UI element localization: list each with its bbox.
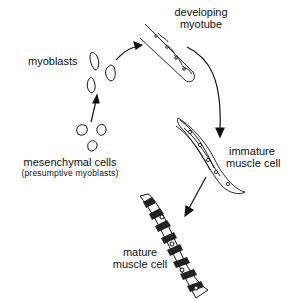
arrow-to-myotube <box>116 42 142 60</box>
myoblast-cells <box>87 53 115 93</box>
label-mesenchymal-line1: mesenchymal cells <box>12 157 128 169</box>
label-myoblasts: myoblasts <box>28 56 78 68</box>
label-mesenchymal-line2: (presumptive myoblasts) <box>12 169 128 178</box>
developing-myotube <box>140 24 194 82</box>
label-developing-line2: myotube <box>166 19 236 31</box>
label-immature-line2: muscle cell <box>226 158 296 170</box>
mesenchymal-cells <box>77 124 106 151</box>
label-mature-muscle-cell: mature muscle cell <box>104 247 176 270</box>
arrow-to-myoblasts <box>91 95 99 122</box>
arrow-to-immature <box>187 47 224 137</box>
arrow-to-mature <box>185 177 206 216</box>
label-immature-line1: immature <box>226 146 296 158</box>
label-mesenchymal-cells: mesenchymal cells (presumptive myoblasts… <box>12 157 128 177</box>
label-mature-line1: mature <box>104 247 176 259</box>
label-immature-muscle-cell: immature muscle cell <box>226 146 296 169</box>
label-mature-line2: muscle cell <box>104 259 176 271</box>
label-developing-line1: developing <box>166 7 236 19</box>
label-developing-myotube: developing myotube <box>166 7 236 30</box>
